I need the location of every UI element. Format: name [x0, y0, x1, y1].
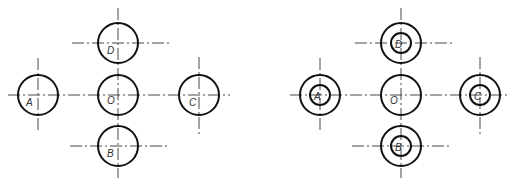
- right-label-d: D: [395, 39, 402, 50]
- right-figure: O D B A C: [290, 8, 510, 178]
- left-figure: O D B A C: [8, 8, 230, 178]
- left-label-c: C: [189, 97, 197, 108]
- left-label-d: D: [107, 45, 114, 56]
- diagram-canvas: O D B A C O D B A C: [0, 0, 514, 188]
- right-label-o: O: [390, 95, 398, 106]
- left-label-a: A: [25, 97, 33, 108]
- right-label-c: C: [474, 91, 482, 102]
- right-label-b: B: [395, 142, 402, 153]
- left-label-b: B: [107, 148, 114, 159]
- left-label-o: O: [107, 95, 115, 106]
- right-label-a: A: [313, 91, 321, 102]
